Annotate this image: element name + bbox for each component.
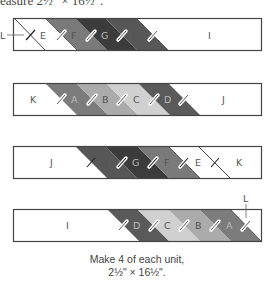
instruction-caption: Make 4 of each unit, 2½" × 16½". — [0, 253, 274, 279]
label-L-callout: L — [243, 193, 249, 204]
label-I: I — [66, 220, 69, 231]
caption-line-1: Make 4 of each unit, — [0, 253, 274, 266]
unit-4-strip: L I D C B A — [0, 0, 274, 250]
label-B: B — [195, 220, 202, 231]
label-D: D — [133, 220, 140, 231]
caption-line-2: 2½" × 16½". — [0, 266, 274, 279]
label-A: A — [226, 220, 233, 231]
label-C: C — [164, 220, 171, 231]
